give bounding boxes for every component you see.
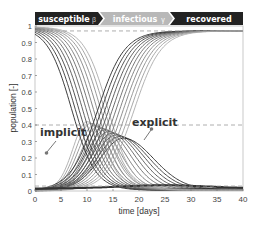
x-tick-label: 0 bbox=[33, 195, 38, 204]
y-axis-label: population [-] bbox=[8, 83, 18, 132]
y-tick-label: 0 bbox=[28, 187, 32, 196]
y-tick-label: 0.9 bbox=[22, 39, 32, 48]
x-tick-label: 5 bbox=[59, 195, 64, 204]
y-tick-label: 0.6 bbox=[22, 88, 32, 97]
x-tick-label: 10 bbox=[83, 195, 92, 204]
y-tick-label: 0.7 bbox=[22, 72, 32, 81]
explicit-label: explicit bbox=[132, 116, 178, 129]
y-tick-label: 1 bbox=[28, 22, 32, 31]
x-tick-label: 35 bbox=[213, 195, 222, 204]
x-tick-label: 15 bbox=[109, 195, 118, 204]
x-axis-label: time [days] bbox=[118, 206, 159, 216]
y-tick-label: 0.1 bbox=[22, 171, 32, 180]
beta-symbol: β bbox=[92, 16, 96, 24]
x-tick-label: 40 bbox=[239, 195, 248, 204]
implicit-arrow-dot bbox=[45, 151, 49, 155]
x-tick-label: 25 bbox=[161, 195, 170, 204]
y-tick-label: 0.5 bbox=[22, 105, 32, 114]
y-tick-label: 0.2 bbox=[22, 154, 32, 163]
x-tick-label: 20 bbox=[135, 195, 144, 204]
sir-chart: susceptible β infectious γ recovered 051… bbox=[0, 0, 256, 225]
phase-banner: susceptible β infectious γ recovered bbox=[35, 12, 243, 25]
y-tick-label: 0.4 bbox=[22, 121, 32, 130]
gamma-symbol: γ bbox=[161, 16, 165, 24]
banner-infectious-label: infectious bbox=[113, 15, 158, 24]
implicit-label: implicit bbox=[40, 126, 86, 139]
banner-susceptible-label: susceptible bbox=[38, 15, 90, 24]
y-tick-label: 0.3 bbox=[22, 138, 32, 147]
x-tick-label: 30 bbox=[187, 195, 196, 204]
banner-recovered-label: recovered bbox=[186, 15, 232, 24]
y-tick-label: 0.8 bbox=[22, 55, 32, 64]
